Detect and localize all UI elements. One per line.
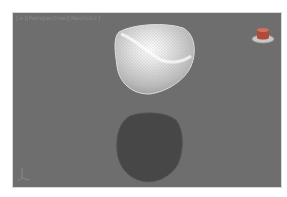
shaded-surface-object[interactable] [105, 16, 199, 98]
shadow-surface-object[interactable] [112, 110, 185, 184]
axis-tripod-icon [17, 166, 31, 182]
3d-viewport[interactable]: [+][Perspective][Realistic] [12, 12, 282, 188]
viewcube-home-icon[interactable] [250, 25, 276, 45]
viewport-label[interactable]: [+][Perspective][Realistic] [16, 14, 100, 21]
